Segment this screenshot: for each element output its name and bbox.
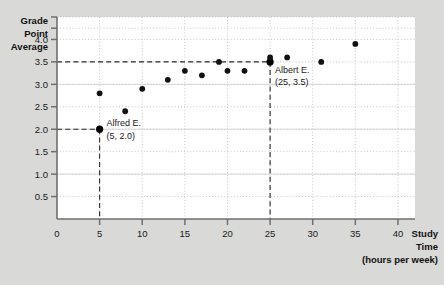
x-tick-label-5: 5 [97,228,102,239]
x-tick-label-20: 20 [222,228,233,239]
y-tick-label-1: 1.0 [35,169,48,180]
data-point-12 [284,55,290,61]
x-tick-label-10: 10 [137,228,148,239]
x-tick-label-25: 25 [265,228,276,239]
x-tick-label-15: 15 [180,228,191,239]
annotation-alfred-coords: (5, 2.0) [107,131,136,141]
y-tick-label-0.5: 0.5 [35,191,48,202]
y-axis-title-line-1: Point [24,28,49,39]
x-tick-label-35: 35 [350,228,361,239]
y-tick-label-3.5: 3.5 [35,56,48,67]
data-point-2 [122,108,128,114]
data-point-5 [182,68,188,74]
y-tick-label-2: 2.0 [35,124,48,135]
annotation-albert-name: Albert E. [275,65,310,75]
x-tick-label-0: 0 [54,228,59,239]
y-tick-label-1.5: 1.5 [35,146,48,157]
data-point-3 [139,86,145,92]
data-point-4 [165,77,171,83]
data-point-9 [242,68,248,74]
data-point-6 [199,72,205,78]
data-point-8 [225,68,231,74]
chart-svg: 0.51.01.52.02.53.03.54.00510152025303540… [0,0,444,285]
data-point-0 [96,126,103,133]
annotation-albert-coords: (25, 3.5) [275,77,309,87]
x-tick-label-40: 40 [393,228,404,239]
data-point-13 [318,59,324,65]
x-axis-title-line-2: (hours per week) [362,254,438,265]
x-axis-title-line-0: Study [412,228,439,239]
annotation-alfred-name: Alfred E. [107,118,142,128]
y-tick-label-2.5: 2.5 [35,101,48,112]
scatter-plot-figure: 0.51.01.52.02.53.03.54.00510152025303540… [0,0,444,285]
data-point-1 [97,90,103,96]
data-point-14 [352,41,358,47]
y-axis-title-line-0: Grade [21,15,48,26]
x-tick-label-30: 30 [307,228,318,239]
x-axis-title-line-1: Time [416,241,438,252]
data-point-11 [267,55,273,61]
y-tick-label-3: 3.0 [35,79,48,90]
data-point-7 [216,59,222,65]
y-axis-title-line-2: Average [11,41,48,52]
